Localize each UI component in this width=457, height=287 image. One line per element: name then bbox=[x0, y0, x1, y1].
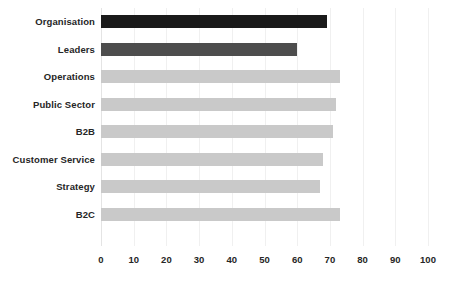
bar-row bbox=[101, 201, 428, 229]
x-tick-80: 80 bbox=[357, 254, 368, 265]
bar-b2b[interactable] bbox=[101, 125, 333, 138]
bar-row bbox=[101, 91, 428, 119]
bar-row bbox=[101, 146, 428, 174]
category-axis-labels: OrganisationLeadersOperationsPublic Sect… bbox=[0, 8, 95, 246]
x-tick-50: 50 bbox=[259, 254, 270, 265]
gridline-100 bbox=[428, 8, 429, 246]
x-tick-70: 70 bbox=[325, 254, 336, 265]
x-tick-10: 10 bbox=[128, 254, 139, 265]
bar-strategy[interactable] bbox=[101, 180, 320, 193]
bar-public-sector[interactable] bbox=[101, 98, 336, 111]
bar-row bbox=[101, 63, 428, 91]
category-label-public-sector: Public Sector bbox=[33, 91, 95, 119]
category-label-operations: Operations bbox=[44, 63, 95, 91]
category-label-b2b: B2B bbox=[76, 118, 95, 146]
bar-b2c[interactable] bbox=[101, 208, 340, 221]
bar-operations[interactable] bbox=[101, 70, 340, 83]
bar-organisation[interactable] bbox=[101, 15, 327, 28]
bar-row bbox=[101, 36, 428, 64]
x-tick-20: 20 bbox=[161, 254, 172, 265]
bar-row bbox=[101, 173, 428, 201]
category-label-organisation: Organisation bbox=[35, 8, 95, 36]
x-tick-90: 90 bbox=[390, 254, 401, 265]
bar-row bbox=[101, 8, 428, 36]
plot-area bbox=[101, 8, 428, 246]
category-label-leaders: Leaders bbox=[58, 36, 95, 64]
category-label-b2c: B2C bbox=[76, 201, 95, 229]
x-tick-60: 60 bbox=[292, 254, 303, 265]
x-tick-40: 40 bbox=[227, 254, 238, 265]
bars-container bbox=[101, 8, 428, 246]
category-label-customer-service: Customer Service bbox=[13, 146, 95, 174]
category-label-strategy: Strategy bbox=[56, 173, 95, 201]
x-axis-tick-labels: 0102030405060708090100 bbox=[101, 254, 428, 274]
bar-chart: OrganisationLeadersOperationsPublic Sect… bbox=[0, 0, 457, 287]
bar-customer-service[interactable] bbox=[101, 153, 323, 166]
x-tick-30: 30 bbox=[194, 254, 205, 265]
bar-leaders[interactable] bbox=[101, 43, 297, 56]
x-tick-100: 100 bbox=[420, 254, 436, 265]
bar-row bbox=[101, 118, 428, 146]
x-tick-0: 0 bbox=[98, 254, 103, 265]
